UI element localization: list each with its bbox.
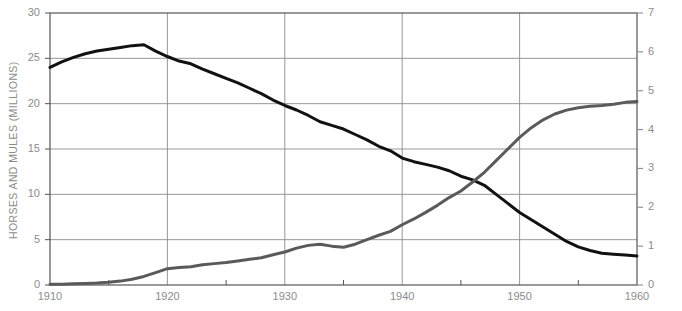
x-axis-tick-label: 1960 [614,290,660,302]
y-axis-right-tick-label: 6 [648,45,674,57]
y-axis-left-tick-label: 25 [14,51,40,63]
x-axis-tick-label: 1920 [144,290,190,302]
y-axis-left-tick-label: 15 [14,142,40,154]
chart-container: HORSES AND MULES (MILLIONS) TRACTORS (MI… [0,0,682,311]
x-axis-tick-label: 1910 [27,290,73,302]
y-axis-left-tick-label: 20 [14,97,40,109]
y-axis-right-tick-label: 4 [648,123,674,135]
y-axis-left-tick-label: 30 [14,6,40,18]
x-axis-tick-label: 1930 [262,290,308,302]
y-axis-right-tick-label: 1 [648,239,674,251]
y-axis-left-tick-label: 10 [14,187,40,199]
y-axis-right-tick-label: 3 [648,161,674,173]
x-axis-tick-label: 1950 [497,290,543,302]
x-axis-tick-label: 1940 [379,290,425,302]
y-axis-right-tick-label: 2 [648,200,674,212]
y-axis-right-tick-label: 5 [648,84,674,96]
y-axis-left-tick-label: 0 [14,278,40,290]
series-line-horses-and-mules [50,45,637,256]
plot-svg [0,0,682,311]
y-axis-right-tick-label: 7 [648,6,674,18]
y-axis-left-tick-label: 5 [14,233,40,245]
y-axis-right-tick-label: 0 [648,278,674,290]
